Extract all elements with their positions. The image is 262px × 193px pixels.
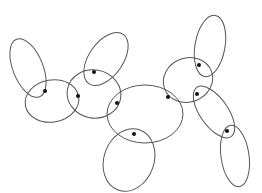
ellipse-intersection-diagram xyxy=(0,0,262,193)
ellipse-F xyxy=(157,51,219,109)
intersection-dot-d5 xyxy=(132,132,136,136)
ellipse-H xyxy=(185,79,242,144)
intersection-dot-d2 xyxy=(76,94,80,98)
intersection-dot-d4 xyxy=(115,101,119,105)
intersection-dot-d1 xyxy=(43,89,47,93)
intersection-dot-d7 xyxy=(197,63,201,67)
intersection-dot-d3 xyxy=(92,70,96,74)
ellipse-B xyxy=(22,76,82,127)
intersection-dot-d8 xyxy=(195,92,199,96)
ellipse-I xyxy=(217,123,253,188)
intersection-dot-d9 xyxy=(225,129,229,133)
ellipses-group xyxy=(2,13,253,193)
intersection-dot-d6 xyxy=(166,95,170,99)
intersection-dots-group xyxy=(43,63,229,136)
ellipse-D xyxy=(75,25,137,94)
ellipse-J xyxy=(95,121,164,193)
